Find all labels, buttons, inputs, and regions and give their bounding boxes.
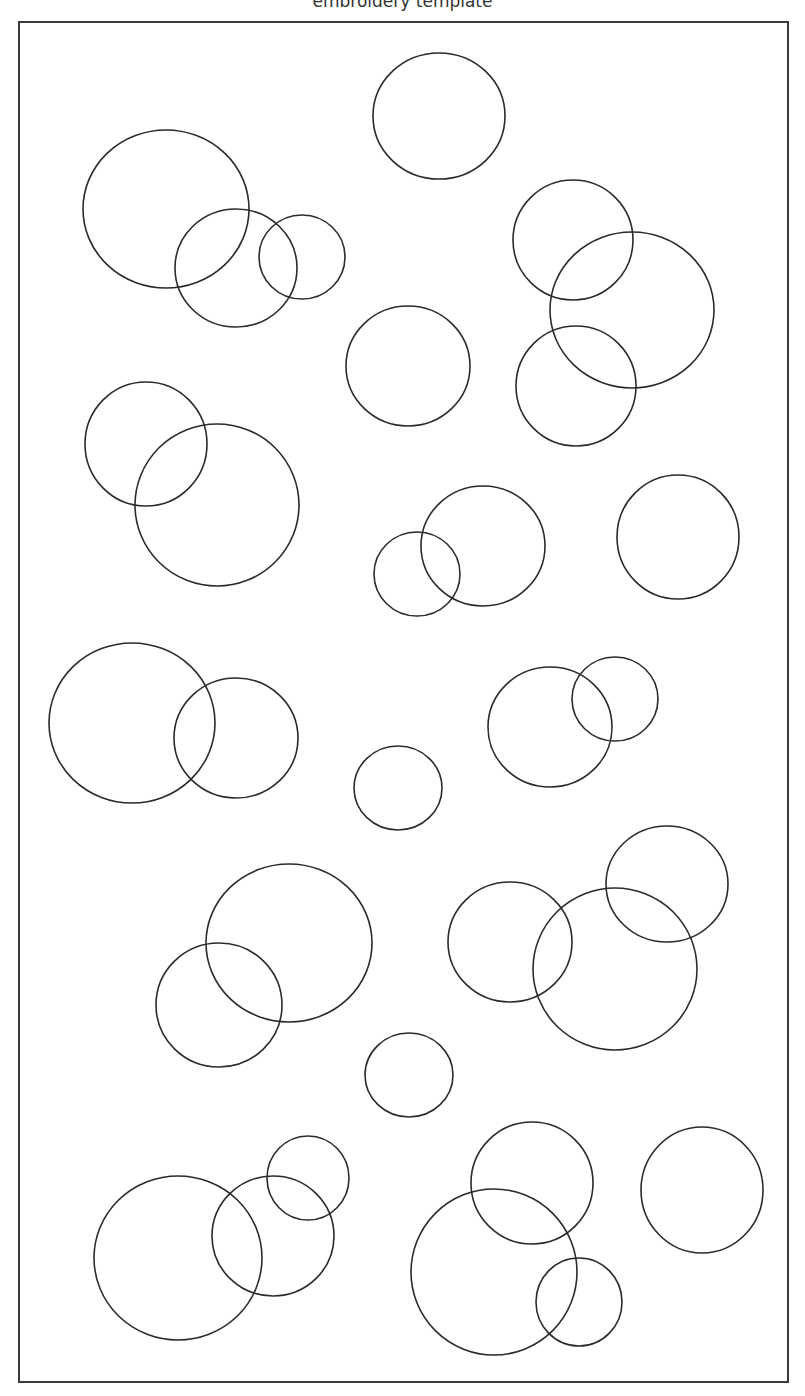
circle-outline	[536, 1258, 622, 1346]
circle-outline	[354, 746, 442, 830]
circle-outline	[488, 667, 612, 787]
circle-outline	[448, 882, 572, 1002]
circle-outline	[533, 888, 697, 1050]
circle-outline	[175, 209, 297, 327]
circle-outline	[606, 826, 728, 942]
circle-outline	[156, 943, 282, 1067]
circle-outline	[374, 532, 460, 616]
circle-outline	[346, 306, 470, 426]
circle-outline	[572, 657, 658, 741]
circle-outline	[411, 1189, 577, 1355]
circle-outline	[85, 382, 207, 506]
circle-outline	[83, 130, 249, 288]
circle-outline	[513, 180, 633, 300]
circle-outline	[94, 1176, 262, 1340]
circle-outline	[212, 1176, 334, 1296]
circle-outline	[373, 53, 505, 179]
circle-outline	[259, 215, 345, 299]
circle-outline	[641, 1127, 763, 1253]
circle-outline	[516, 326, 636, 446]
circle-outline	[365, 1033, 453, 1117]
circle-outline	[267, 1136, 349, 1220]
circle-outline	[174, 678, 298, 798]
circle-pattern	[0, 0, 805, 1396]
circle-outline	[421, 486, 545, 606]
circle-outline	[471, 1122, 593, 1244]
circle-outline	[617, 475, 739, 599]
circle-outline	[206, 864, 372, 1022]
